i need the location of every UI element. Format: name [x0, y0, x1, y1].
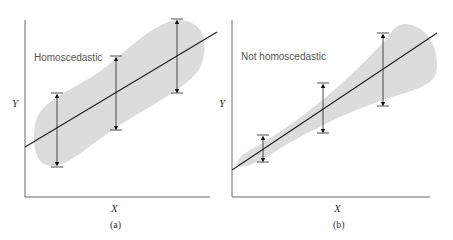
panel-caption: (b) — [333, 219, 345, 231]
y-axis-label: Y — [12, 97, 20, 109]
y-axis-label: Y — [219, 97, 227, 109]
homoscedasticity-diagram: Homoscedastic Y X (a) Not homoscedastic … — [0, 0, 453, 240]
panel-a: Homoscedastic Y X (a) — [12, 19, 217, 231]
panel-b: Not homoscedastic Y X (b) — [219, 20, 437, 231]
panel-title: Not homoscedastic — [241, 51, 326, 62]
x-axis-label: X — [333, 202, 342, 214]
panel-caption: (a) — [110, 219, 121, 231]
variance-band — [237, 24, 437, 167]
panel-title: Homoscedastic — [34, 52, 102, 63]
x-axis-label: X — [110, 202, 119, 214]
